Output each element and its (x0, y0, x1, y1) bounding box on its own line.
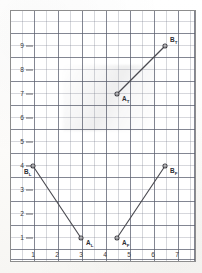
x-axis-tick-labels: 1234567 (31, 251, 179, 258)
marker-core-B_F (164, 165, 166, 167)
x-tick-label-7: 7 (175, 251, 179, 258)
plot-overlay: 123456789 1234567 ATBTBLALAFBF (0, 0, 202, 273)
marker-core-A_L (80, 237, 82, 239)
y-tick-label-6: 6 (20, 114, 24, 121)
figure-page: 123456789 1234567 ATBTBLALAFBF (0, 0, 202, 273)
marker-core-B_T (164, 45, 166, 47)
y-tick-label-5: 5 (20, 138, 24, 145)
y-tick-label-3: 3 (20, 186, 24, 193)
label-A-T: AT (122, 95, 130, 104)
axis-tick-marks (26, 46, 33, 238)
segment-T (117, 46, 165, 94)
segment-L (33, 166, 81, 238)
marker-core-B_L (32, 165, 34, 167)
x-tick-label-2: 2 (55, 251, 59, 258)
y-tick-label-9: 9 (20, 42, 24, 49)
x-tick-label-1: 1 (31, 251, 35, 258)
x-tick-label-4: 4 (103, 251, 107, 258)
label-B-F: BF (170, 167, 178, 176)
y-tick-label-8: 8 (20, 66, 24, 73)
data-point-labels: ATBTBLALAFBF (24, 36, 178, 248)
data-segments (33, 46, 165, 238)
x-tick-label-6: 6 (151, 251, 155, 258)
x-tick-label-5: 5 (127, 251, 131, 258)
y-tick-label-1: 1 (20, 234, 24, 241)
label-A-L: AL (86, 239, 94, 248)
x-tick-label-3: 3 (79, 251, 83, 258)
marker-core-A_T (116, 93, 118, 95)
segment-F (117, 166, 165, 238)
y-tick-label-2: 2 (20, 210, 24, 217)
y-tick-label-7: 7 (20, 90, 24, 97)
y-axis-tick-labels: 123456789 (20, 42, 24, 241)
label-B-L: BL (24, 168, 32, 177)
marker-core-A_F (116, 237, 118, 239)
label-B-T: BT (170, 36, 178, 45)
data-point-markers (31, 44, 167, 240)
label-A-F: AF (122, 239, 130, 248)
